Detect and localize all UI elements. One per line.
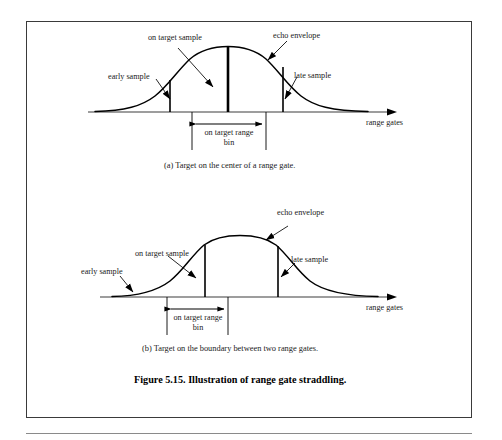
panel-b-early-sample-label: early sample	[81, 267, 123, 277]
panel-a-range-bin-label-line2: bin	[186, 138, 272, 148]
figure-title: Figure 5.15. Illustration of range gate …	[134, 374, 346, 385]
panel-b-on-target-sample-label: on target sample	[135, 249, 189, 259]
panel-a-on-target-sample-leader	[178, 48, 213, 87]
panel-a-caption: (a) Target on the center of a range gate…	[164, 161, 295, 170]
panel-a-late-sample-label: late sample	[294, 71, 331, 81]
panel-b-axis-arrowhead	[387, 293, 397, 300]
panel-b-late-sample-leader	[281, 263, 295, 277]
panel-b-early-sample-leader	[120, 276, 133, 292]
panel-b-echo-envelope-label: echo envelope	[277, 208, 324, 218]
panel-b-range-bin-label-line1: on target range	[155, 313, 241, 323]
panel-b-echo-envelope-leader	[266, 226, 288, 240]
panel-a-axis-arrowhead	[387, 108, 397, 115]
panel-a-early-sample-label: early sample	[108, 72, 150, 82]
panel-b-echo-envelope-curve	[112, 236, 378, 297]
panel-b-on-target-sample-leader	[168, 256, 196, 278]
panel-a-axis-label: range gates	[366, 118, 403, 128]
panel-b-range-bin-label-line2: bin	[155, 323, 241, 333]
panel-b-late-sample-label: late sample	[291, 255, 328, 265]
panel-b-axis-label: range gates	[366, 303, 403, 313]
panel-a-early-sample-leader	[156, 79, 170, 99]
panel-a-range-bin-label-line1: on target range	[186, 128, 272, 138]
panel-a-echo-envelope-label: echo envelope	[273, 31, 320, 41]
panel-b-graphics	[100, 226, 397, 335]
panel-a-on-target-sample-label: on target sample	[148, 33, 202, 43]
panel-b-caption: (b) Target on the boundary between two r…	[142, 344, 318, 353]
panel-a-echo-envelope-leader	[268, 41, 287, 60]
